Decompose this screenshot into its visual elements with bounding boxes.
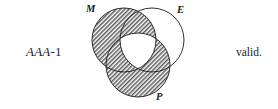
venn-figure-root: AAA-1 (0, 0, 278, 109)
syllogism-figure-number: 1 (55, 44, 62, 59)
venn-label-p: P (156, 92, 162, 103)
venn-label-m: M (86, 4, 95, 15)
syllogism-mood: AAA (26, 44, 50, 59)
validity-verdict: valid. (236, 46, 262, 58)
venn-label-e: E (177, 5, 184, 16)
syllogism-form-label: AAA-1 (26, 44, 62, 60)
syllogism-figure-number-group: -1 (50, 44, 61, 59)
venn-shaded-area (82, 0, 194, 109)
venn-diagram (82, 0, 194, 109)
